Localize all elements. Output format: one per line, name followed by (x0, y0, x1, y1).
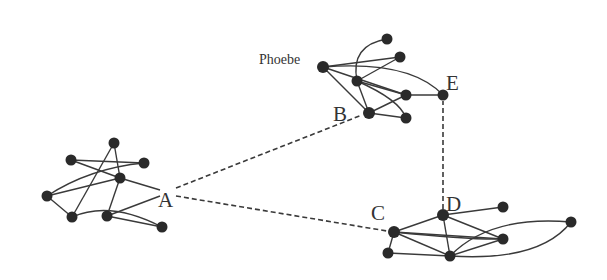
top-cluster: Phoebe B E (259, 34, 459, 127)
graph-node (566, 217, 577, 228)
graph-node (157, 222, 168, 233)
label-a: A (158, 188, 174, 212)
bottom-right-cluster: C D (371, 192, 577, 262)
label-phoebe: Phoebe (259, 52, 300, 67)
graph-node (383, 248, 394, 259)
label-d: D (446, 192, 461, 216)
label-e: E (446, 71, 459, 95)
graph-node (66, 155, 77, 166)
graph-node (139, 158, 150, 169)
link-a-to-c (176, 196, 387, 231)
graph-node (109, 138, 120, 149)
link-a-to-b (176, 115, 362, 188)
hub-node (115, 173, 126, 184)
phoebe-node (317, 61, 329, 73)
graph-node (395, 52, 406, 63)
graph-node (67, 212, 78, 223)
left-cluster-nodes (42, 138, 168, 233)
graph-node (498, 234, 509, 245)
node-c (388, 226, 400, 238)
graph-node (498, 202, 509, 213)
bottom-right-cluster-edges (388, 207, 571, 257)
left-cluster: A (42, 138, 175, 233)
label-b: B (333, 102, 347, 126)
graph-node (352, 76, 363, 87)
node-b (363, 107, 375, 119)
graph-node (102, 211, 113, 222)
graph-node (401, 90, 412, 101)
network-diagram: A Phoebe B E (0, 0, 607, 280)
graph-node (445, 251, 456, 262)
graph-node (42, 191, 53, 202)
label-c: C (371, 201, 385, 225)
graph-node (382, 34, 393, 45)
graph-node (401, 113, 412, 124)
